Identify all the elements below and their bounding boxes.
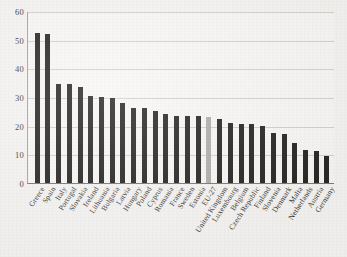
bar (228, 123, 233, 183)
y-axis-tick-label: 50 (2, 36, 24, 46)
plot-area (27, 12, 334, 184)
bar (303, 150, 308, 183)
bar (153, 111, 158, 183)
bar (282, 134, 287, 183)
bar (324, 156, 329, 183)
bar (99, 97, 104, 183)
bar (163, 114, 168, 183)
bar (56, 84, 61, 183)
bar (206, 117, 211, 183)
y-axis-tick-label: 40 (2, 64, 24, 74)
bar (45, 34, 50, 183)
bar (271, 133, 276, 183)
bar (217, 119, 222, 184)
bar (88, 96, 93, 183)
bar (67, 84, 72, 183)
bar (120, 103, 125, 183)
y-axis-tick-label: 20 (2, 122, 24, 132)
x-axis-category-labels: GreeceSpainItalyPortugalSlovakiaIrelandL… (27, 185, 334, 257)
bar (131, 108, 136, 183)
bar (314, 151, 319, 183)
bar-series (28, 12, 334, 183)
y-axis-tick-label: 0 (2, 179, 24, 189)
bar (78, 87, 83, 183)
bar (249, 124, 254, 183)
bar (260, 126, 265, 183)
y-axis-tick-label: 10 (2, 150, 24, 160)
bar (196, 116, 201, 183)
y-axis-tick-label: 60 (2, 7, 24, 17)
bar (292, 143, 297, 183)
bar (35, 33, 40, 184)
bar (110, 98, 115, 183)
bar (174, 116, 179, 183)
bar (142, 108, 147, 183)
y-axis-tick-label: 30 (2, 93, 24, 103)
bar (239, 124, 244, 183)
chart-screenshot: 0102030405060 GreeceSpainItalyPortugalSl… (0, 0, 347, 257)
bar (185, 116, 190, 183)
